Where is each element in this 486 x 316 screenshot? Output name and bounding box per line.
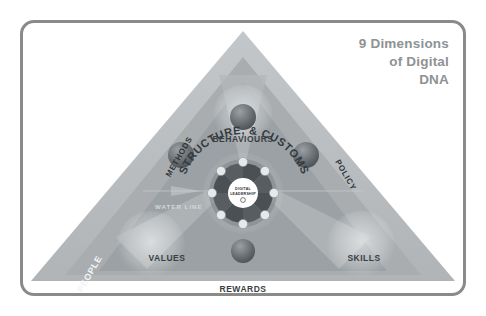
halo-values bbox=[117, 211, 185, 279]
label-skills: SKILLS bbox=[321, 253, 407, 263]
page-title: 9 Dimensions of Digital DNA bbox=[359, 35, 449, 88]
title-line-3: DNA bbox=[359, 71, 449, 89]
halo-skills bbox=[327, 211, 395, 279]
label-behaviours: BEHAVIOURS bbox=[23, 134, 463, 144]
label-water-line: WATER LINE bbox=[155, 203, 203, 210]
diagram-frame: STRUCTURE, & CUSTOMS bbox=[20, 20, 466, 296]
screenshot-root: STRUCTURE, & CUSTOMS bbox=[0, 0, 486, 316]
title-line-2: of Digital bbox=[359, 53, 449, 71]
hub-label-line1: DIGITAL bbox=[23, 187, 463, 191]
title-line-1: 9 Dimensions bbox=[359, 35, 449, 53]
hub-label-line2: LEADERSHIP bbox=[23, 192, 463, 196]
label-values: VALUES bbox=[124, 253, 210, 263]
label-rewards: REWARDS bbox=[23, 284, 463, 294]
node-rewards[interactable] bbox=[231, 239, 255, 263]
